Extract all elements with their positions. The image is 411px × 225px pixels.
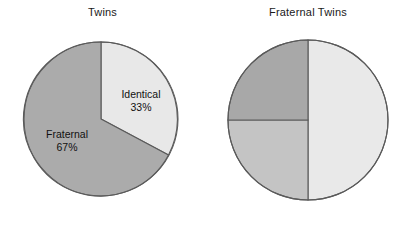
chart-panel-twins: Twins Identical 33% Fraternal 67% xyxy=(0,0,205,225)
chart-title-twins: Twins xyxy=(0,6,205,19)
pie-slice-boy-girl xyxy=(308,40,388,200)
pie-chart-figure: Twins Identical 33% Fraternal 67% Frater… xyxy=(0,0,411,225)
chart-title-fraternal-twins: Fraternal Twins xyxy=(205,6,411,19)
pie-slice-girl-girl xyxy=(228,120,308,200)
pie-fraternal-twins xyxy=(223,37,395,209)
pie-slice-boy-boy xyxy=(228,40,308,120)
chart-panel-fraternal-twins: Fraternal Twins Boy/Boy 25% Girl/Girl 25… xyxy=(205,0,411,225)
pie-twins xyxy=(22,38,182,204)
